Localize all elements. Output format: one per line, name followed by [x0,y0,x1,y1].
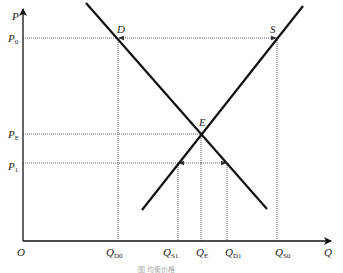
qd0-label: QD0 [106,246,123,260]
pe-label: PE [7,128,19,142]
qe-label: QE [196,246,208,260]
demand-label: D [116,23,125,35]
p0-label: P0 [7,32,19,46]
supply-demand-diagram: P Q O D S E P0 PE P1 QD0 QS1 QE QD1 QS0 … [0,0,343,273]
p1-label: P1 [7,160,19,174]
supply-label: S [270,23,276,35]
x-axis-label: Q [324,246,332,258]
origin-label: O [17,246,25,258]
qd1-label: QD1 [225,246,242,260]
y-axis-label: P [11,10,19,22]
equilibrium-label: E [198,116,206,128]
supply-curve [142,6,303,210]
demand-curve [86,3,267,209]
figure-caption: 图 均衡价格 [138,265,175,273]
qs1-label: QS1 [163,246,179,260]
qs0-label: QS0 [275,246,291,260]
